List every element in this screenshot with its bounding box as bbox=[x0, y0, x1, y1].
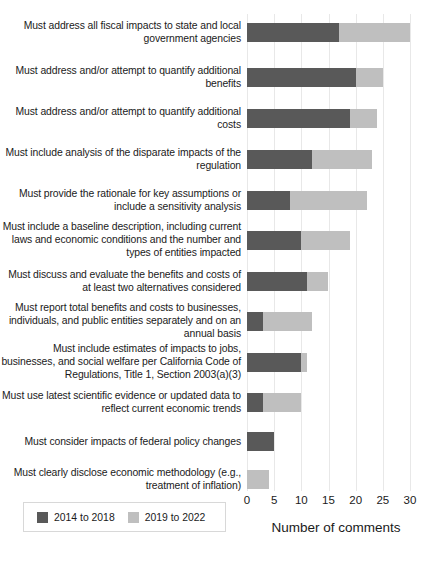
category-label: Must include a baseline description, inc… bbox=[0, 220, 241, 260]
category-label: Must address and/or attempt to quantify … bbox=[0, 105, 241, 131]
legend-label: 2014 to 2018 bbox=[54, 512, 115, 523]
category-label: Must include estimates of impacts to job… bbox=[0, 342, 241, 382]
category-label: Must report total benefits and costs to … bbox=[0, 301, 241, 341]
x-axis-ticks: 051015202530 bbox=[247, 493, 410, 509]
category-label: Must discuss and evaluate the benefits a… bbox=[0, 268, 241, 294]
bar-segment-series-b bbox=[312, 150, 372, 169]
bar-segment-series-b bbox=[301, 231, 350, 250]
bar-row bbox=[247, 150, 410, 169]
bar-segment-series-b bbox=[350, 109, 377, 128]
x-tick-label-5: 5 bbox=[271, 493, 277, 507]
bar-row bbox=[247, 393, 410, 412]
category-label: Must provide the rationale for key assum… bbox=[0, 187, 241, 213]
bar-segment-series-a bbox=[247, 231, 301, 250]
x-tick-label-15: 15 bbox=[322, 493, 335, 507]
bar-segment-series-b bbox=[301, 353, 306, 372]
bar-segment-series-b bbox=[263, 393, 301, 412]
bar-segment-series-b bbox=[290, 191, 366, 210]
bar-segment-series-a bbox=[247, 191, 290, 210]
bar-segment-series-b bbox=[356, 68, 383, 87]
legend-entry[interactable]: 2019 to 2022 bbox=[128, 512, 206, 523]
category-label: Must address and/or attempt to quantify … bbox=[0, 64, 241, 90]
bar-segment-series-a bbox=[247, 68, 356, 87]
legend-swatch-icon bbox=[37, 512, 48, 523]
plot-area bbox=[247, 14, 410, 491]
gridline-30 bbox=[410, 14, 411, 491]
legend-entry[interactable]: 2014 to 2018 bbox=[37, 512, 115, 523]
bar-row bbox=[247, 231, 410, 250]
x-tick-label-20: 20 bbox=[349, 493, 362, 507]
bar-row bbox=[247, 23, 410, 42]
category-label: Must address all fiscal impacts to state… bbox=[0, 19, 241, 45]
x-tick-label-10: 10 bbox=[295, 493, 308, 507]
bar-segment-series-b bbox=[247, 470, 269, 489]
bar-row bbox=[247, 353, 410, 372]
bar-segment-series-a bbox=[247, 150, 312, 169]
x-axis-title: Number of comments bbox=[247, 520, 425, 535]
bar-row bbox=[247, 432, 410, 451]
category-label: Must consider impacts of federal policy … bbox=[0, 435, 241, 448]
bar-segment-series-a bbox=[247, 353, 301, 372]
category-label: Must use latest scientific evidence or u… bbox=[0, 389, 241, 415]
category-label: Must include analysis of the disparate i… bbox=[0, 146, 241, 172]
legend-swatch-icon bbox=[128, 512, 139, 523]
bar-segment-series-a bbox=[247, 109, 350, 128]
bar-row bbox=[247, 312, 410, 331]
category-label: Must clearly disclose economic methodolo… bbox=[0, 466, 241, 492]
bar-segment-series-a bbox=[247, 272, 307, 291]
bar-segment-series-b bbox=[307, 272, 329, 291]
x-tick-label-30: 30 bbox=[404, 493, 417, 507]
stacked-bar-chart: Must address all fiscal impacts to state… bbox=[0, 0, 431, 565]
bar-series-group bbox=[247, 14, 410, 491]
legend-label: 2019 to 2022 bbox=[145, 512, 206, 523]
x-tick-label-0: 0 bbox=[244, 493, 250, 507]
x-tick-label-25: 25 bbox=[376, 493, 389, 507]
bar-segment-series-a bbox=[247, 312, 263, 331]
bar-row bbox=[247, 191, 410, 210]
bar-row bbox=[247, 272, 410, 291]
bar-segment-series-a bbox=[247, 23, 339, 42]
category-label-list: Must address all fiscal impacts to state… bbox=[0, 14, 241, 491]
bar-row bbox=[247, 109, 410, 128]
bar-row bbox=[247, 470, 410, 489]
bar-segment-series-a bbox=[247, 432, 274, 451]
bar-segment-series-b bbox=[263, 312, 312, 331]
bar-segment-series-b bbox=[339, 23, 410, 42]
bar-segment-series-a bbox=[247, 393, 263, 412]
bar-row bbox=[247, 68, 410, 87]
chart-legend: 2014 to 20182019 to 2022 bbox=[23, 502, 226, 532]
